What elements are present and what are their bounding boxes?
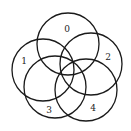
label-1: 1 <box>21 56 27 66</box>
label-4: 4 <box>90 103 96 113</box>
venn-diagram: 0 1 2 3 4 <box>0 0 131 131</box>
label-2: 2 <box>105 52 111 62</box>
label-3: 3 <box>46 105 52 115</box>
label-0: 0 <box>64 24 70 34</box>
